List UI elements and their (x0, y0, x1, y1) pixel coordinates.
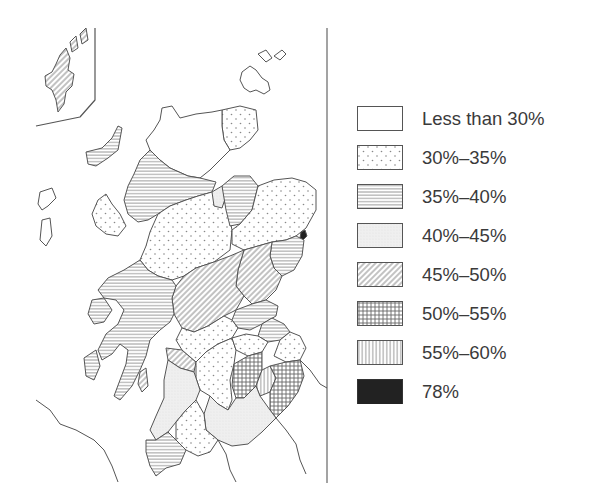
swatch-blank (357, 106, 403, 131)
region-western-isles-south (38, 188, 56, 210)
swatch-vertical-lines (357, 340, 403, 365)
scotland-map (0, 0, 590, 503)
legend-item-55-60: 55%–60% (357, 340, 587, 366)
region-orkney-isle (258, 50, 272, 62)
legend-label: 78% (422, 380, 459, 404)
legend-item-less-than-30: Less than 30% (357, 106, 587, 132)
legend-label: 30%–35% (422, 146, 506, 170)
swatch-dots (357, 145, 403, 170)
swatch-diagonal-lines (357, 262, 403, 287)
legend-item-45-50: 45%–50% (357, 262, 587, 288)
legend-item-50-55: 50%–55% (357, 301, 587, 327)
region-western-isles (86, 126, 122, 166)
legend-label: 55%–60% (422, 341, 506, 365)
legend-label: Less than 30% (422, 107, 544, 131)
legend-label: 35%–40% (422, 185, 506, 209)
region-orkney-isle2 (274, 50, 286, 60)
region-shetland-isle (70, 36, 78, 52)
legend-item-78: 78% (357, 379, 587, 405)
swatch-crosshatch (357, 301, 403, 326)
border-east (300, 360, 327, 388)
region-shetland (45, 48, 74, 112)
swatch-fine-stipple (357, 223, 403, 248)
legend-item-30-35: 30%–35% (357, 145, 587, 171)
region-roxburgh (270, 360, 304, 418)
legend-label: 50%–55% (422, 302, 506, 326)
legend-label: 45%–50% (422, 263, 506, 287)
region-islay (84, 350, 100, 380)
legend-item-40-45: 40%–45% (357, 223, 587, 249)
swatch-solid-black (357, 379, 403, 404)
coastline-england (276, 418, 306, 474)
region-caithness (222, 106, 258, 150)
coastline-ireland (36, 400, 118, 482)
legend-item-35-40: 35%–40% (357, 184, 587, 210)
region-orkney (240, 66, 270, 94)
swatch-horizontal-lines (357, 184, 403, 209)
region-skye (92, 194, 126, 236)
region-western-isles-south2 (40, 218, 52, 246)
legend-label: 40%–45% (422, 224, 506, 248)
region-shetland-isle2 (80, 28, 88, 44)
region-mull (88, 298, 112, 324)
